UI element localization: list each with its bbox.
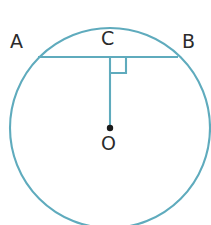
right-angle-icon xyxy=(110,57,126,73)
vertex-label-a: A xyxy=(10,32,23,51)
center-point-icon xyxy=(107,125,113,131)
geometry-figure: A B C O xyxy=(0,0,211,225)
vertex-label-o: O xyxy=(101,134,116,153)
vertex-label-c: C xyxy=(101,29,114,48)
vertex-label-b: B xyxy=(182,32,195,51)
